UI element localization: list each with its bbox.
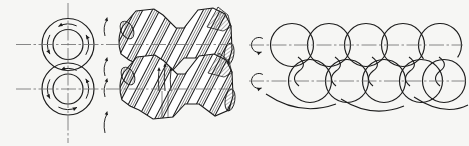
arrowhead xyxy=(105,111,108,115)
line xyxy=(232,1,276,86)
arrowhead xyxy=(257,88,262,92)
flow-arrow xyxy=(104,114,107,133)
line xyxy=(240,1,284,86)
arrowhead xyxy=(61,67,66,71)
waist-s-curve xyxy=(406,57,415,86)
line xyxy=(235,1,279,86)
line xyxy=(241,47,285,132)
arrowhead xyxy=(257,52,262,56)
side-view xyxy=(96,1,285,132)
waist-s-curve xyxy=(295,57,304,86)
arrowhead xyxy=(105,78,108,82)
waist-s-curve xyxy=(332,57,341,86)
top-lobe-partial-arc xyxy=(418,23,461,58)
twin-screw-diagram xyxy=(0,0,469,146)
cross-section-sequence-view xyxy=(251,23,468,111)
flow-arrow xyxy=(104,20,107,36)
flow-arrow xyxy=(104,60,107,76)
axial-flow-arrows xyxy=(104,17,108,133)
line xyxy=(233,47,277,132)
diagram-canvas xyxy=(0,0,469,146)
swept-profile-arc xyxy=(414,97,468,110)
bottom-screw xyxy=(97,47,285,132)
waist-s-curve xyxy=(369,57,378,86)
swept-profile-arc xyxy=(341,99,404,111)
arrowhead xyxy=(105,57,108,61)
arrowhead xyxy=(105,17,108,21)
